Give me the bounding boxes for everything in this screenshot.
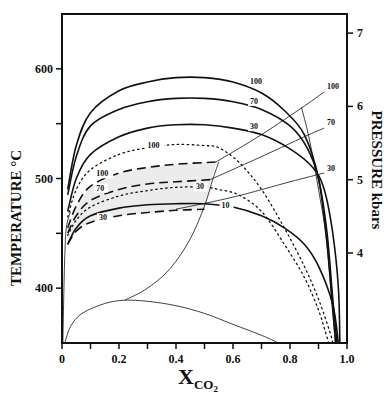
curve-label: 100 xyxy=(250,77,262,86)
y-axis-title: TEMPERATURE °C xyxy=(8,150,24,286)
curve-label: 70 xyxy=(327,118,335,127)
y-tick-label: 500 xyxy=(35,172,53,186)
curve-label: 70 xyxy=(96,184,104,193)
curve-label: 30 xyxy=(327,164,335,173)
curve-label: 30 xyxy=(99,213,107,222)
x-axis-title: XCO2 xyxy=(178,364,218,394)
phase-diagram-chart: 1007030100100703030101007030 00.20.40.60… xyxy=(0,0,391,395)
y2-tick-label: 5 xyxy=(357,173,363,187)
curve-label: 30 xyxy=(250,122,258,131)
y2-tick-label: 4 xyxy=(357,246,363,260)
x-tick-label: 1.0 xyxy=(340,352,355,366)
y-tick-label: 400 xyxy=(35,281,53,295)
y-tick-label: 600 xyxy=(35,62,53,76)
curve-label: 100 xyxy=(96,169,108,178)
x-tick-label: 0.2 xyxy=(112,352,127,366)
curve-label: 10 xyxy=(222,201,230,210)
curve-pressure-line-100 xyxy=(216,92,324,162)
y2-axis-ticks: 4567 xyxy=(347,26,363,260)
y2-axis-title: PRESSURE kbars xyxy=(369,111,385,230)
x-tick-label: 0 xyxy=(59,352,65,366)
curve-label: 70 xyxy=(250,97,258,106)
x-axis-title-main: X xyxy=(178,364,194,389)
curve-label: 100 xyxy=(148,141,160,150)
curve-steep-boundary xyxy=(301,107,335,343)
x-axis-ticks: 00.20.40.60.81.0 xyxy=(59,343,355,366)
x-tick-label: 0.6 xyxy=(226,352,241,366)
curve-solid-30 xyxy=(68,124,340,343)
y2-tick-label: 6 xyxy=(357,99,363,113)
y-axis-ticks: 400500600 xyxy=(35,62,62,295)
x-tick-label: 0.8 xyxy=(283,352,298,366)
curve-pressure-line-70 xyxy=(210,128,324,180)
curve-solid-10 xyxy=(68,203,339,343)
curve-label: 100 xyxy=(327,82,339,91)
curve-label: 30 xyxy=(196,182,204,191)
y2-tick-label: 7 xyxy=(357,26,363,40)
curve-thin-boundary-lower xyxy=(65,300,279,343)
x-axis-title-sub: CO xyxy=(194,377,214,392)
x-axis-title-sub2: 2 xyxy=(213,384,218,394)
